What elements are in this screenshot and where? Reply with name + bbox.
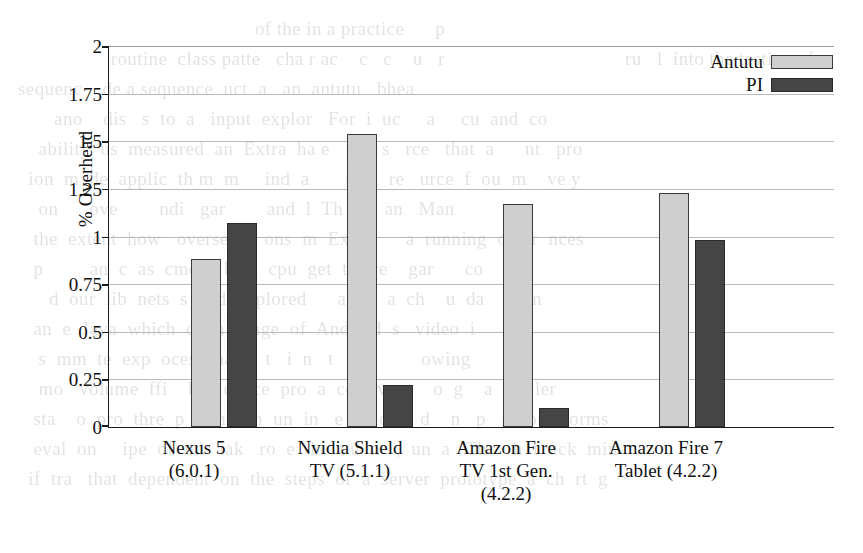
tickmark-1-5: [102, 141, 109, 143]
legend-label-antutu: Antutu: [710, 52, 763, 71]
tickmark-1-75: [102, 94, 109, 96]
legend-swatch-antutu: [771, 55, 833, 69]
tickmark-0-5: [102, 332, 109, 334]
x-tick-label-amazon-fire-7-tablet: Amazon Fire 7 Tablet (4.2.2): [598, 436, 734, 482]
y-tick-label: 0: [40, 418, 102, 437]
tickmark-0-25: [102, 379, 109, 381]
bar-antutu-nexus-5: [191, 259, 221, 427]
tickmark-1: [102, 237, 109, 239]
y-tick-label: 0.25: [40, 370, 102, 389]
bar-pi-amazon-fire-7-tablet: [695, 240, 725, 427]
bar-antutu-amazon-fire-7-tablet: [659, 193, 689, 427]
y-tick-label: 0.75: [40, 275, 102, 294]
y-tick-label: 1: [40, 227, 102, 246]
plot-area: [108, 46, 834, 428]
bar-group-amazon-fire-7-tablet: [659, 46, 759, 427]
tickmark-0: [102, 425, 109, 427]
y-tick-label: 2: [40, 37, 102, 56]
tickmark-2: [102, 46, 109, 48]
bar-group-amazon-fire-tv: [503, 46, 603, 427]
bar-pi-nexus-5: [227, 223, 257, 427]
y-tick-label: 1.75: [40, 84, 102, 103]
bar-pi-nvidia-shield-tv: [383, 385, 413, 427]
legend-swatch-pi: [771, 78, 833, 92]
tickmark-0-75: [102, 284, 109, 286]
bar-group-nexus-5: [191, 46, 291, 427]
bar-antutu-amazon-fire-tv: [503, 204, 533, 427]
y-axis-tick-labels: 0 0.25 0.5 0.75 1 1.25 1.5 1.75 2: [36, 0, 102, 553]
legend-label-pi: PI: [746, 75, 763, 94]
x-tick-label-nexus-5: Nexus 5 (6.0.1): [130, 436, 258, 482]
legend-entry-antutu: Antutu: [710, 50, 833, 73]
bar-chart-figure: % Overhead 0 0.25 0.5 0.75 1 1.25 1.5 1.…: [0, 0, 863, 553]
y-tick-label: 1.25: [40, 180, 102, 199]
bar-pi-amazon-fire-tv: [539, 408, 569, 427]
legend-entry-pi: PI: [710, 73, 833, 96]
x-tick-label-amazon-fire-tv: Amazon Fire TV 1st Gen. (4.2.2): [442, 436, 570, 505]
bar-antutu-nvidia-shield-tv: [347, 134, 377, 427]
y-tick-label: 0.5: [40, 322, 102, 341]
x-tick-label-nvidia-shield-tv: Nvidia Shield TV (5.1.1): [286, 436, 414, 482]
bar-group-nvidia-shield-tv: [347, 46, 447, 427]
chart-legend: Antutu PI: [710, 50, 833, 96]
tickmark-1-25: [102, 189, 109, 191]
y-tick-label: 1.5: [40, 132, 102, 151]
